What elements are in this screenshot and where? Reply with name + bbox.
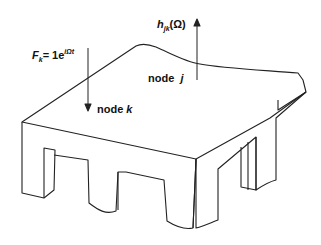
response-arrow-head <box>194 19 200 26</box>
side-face <box>196 137 256 228</box>
structure-drawing <box>0 0 321 245</box>
response-label: hjk(Ω) <box>157 19 186 32</box>
force-arrow-head <box>85 104 91 111</box>
plate-front-face <box>22 122 55 198</box>
force-label: Fk= 1eiΩt <box>32 48 74 63</box>
front-face-span <box>54 155 196 229</box>
node-k-label: node k <box>97 104 132 115</box>
side-leg-far <box>256 92 306 190</box>
node-j-label: node j <box>148 73 183 84</box>
plate-right-edge <box>278 92 306 110</box>
